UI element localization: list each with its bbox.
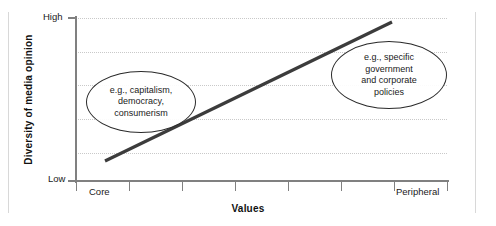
- gridline-5: [76, 153, 447, 154]
- peripheral-values-callout: e.g., specific government and corporate …: [331, 41, 447, 109]
- peripheral-callout-line-2: government: [355, 64, 423, 76]
- peripheral-callout-line-1: e.g., specific: [355, 52, 423, 64]
- y-axis-tick-low: [68, 180, 76, 182]
- core-callout-line-1: e.g., capitalism,: [104, 85, 179, 97]
- x-axis-tick-4: [235, 182, 236, 191]
- x-axis-tick-5: [288, 182, 289, 191]
- figure-right-rule: [475, 12, 476, 213]
- x-axis-label-peripheral: Peripheral: [396, 186, 439, 197]
- peripheral-callout-line-4: policies: [355, 87, 423, 99]
- core-values-callout: e.g., capitalism, democracy, consumerism: [86, 71, 196, 133]
- x-axis-tick-6: [341, 182, 342, 191]
- x-axis-tick-1: [76, 182, 77, 191]
- y-axis-label-high: High: [43, 11, 63, 22]
- core-callout-line-3: consumerism: [104, 108, 179, 120]
- x-axis-tick-3: [182, 182, 183, 191]
- x-axis-tick-2: [129, 182, 130, 191]
- x-axis-title: Values: [0, 203, 496, 214]
- y-axis-label-low: Low: [48, 173, 65, 184]
- gridline-1: [76, 18, 447, 19]
- x-axis-tick-7: [394, 182, 395, 191]
- peripheral-callout-line-3: and corporate: [355, 75, 423, 87]
- core-callout-line-2: democracy,: [104, 96, 179, 108]
- y-axis-line: [75, 16, 77, 183]
- y-axis-title: Diversity of media opinion: [23, 20, 34, 180]
- x-axis-label-core: Core: [89, 186, 110, 197]
- x-axis-tick-8: [447, 182, 448, 191]
- chart-figure: e.g., capitalism, democracy, consumerism…: [0, 0, 496, 226]
- figure-left-rule: [8, 12, 9, 213]
- x-axis-line: [68, 180, 449, 182]
- y-axis-tick-high: [68, 17, 76, 19]
